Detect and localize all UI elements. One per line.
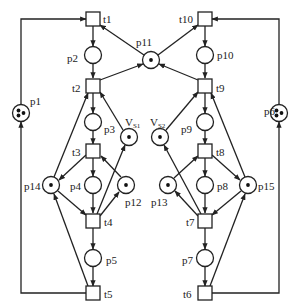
- label-p12: p12: [125, 196, 142, 208]
- label-p4: p4: [70, 180, 82, 192]
- label-t6: t6: [183, 288, 192, 300]
- transition-t7: [198, 214, 212, 228]
- label-p14: p14: [24, 180, 41, 192]
- place-p4: [85, 177, 102, 194]
- place-p10: [197, 47, 214, 64]
- label-t2: t2: [72, 82, 81, 94]
- label-p5: p5: [106, 254, 118, 266]
- place-p8: [197, 177, 214, 194]
- label-p6: p6: [264, 105, 276, 117]
- label-p11: p11: [136, 36, 152, 48]
- label-t3: t3: [72, 146, 81, 158]
- place-p3: [85, 114, 102, 131]
- label-t1: t1: [103, 13, 112, 25]
- label-t7: t7: [186, 216, 195, 228]
- place-p1: [13, 105, 30, 122]
- label-p9: p9: [181, 123, 193, 135]
- transition-t6: [198, 286, 212, 300]
- place-p5: [85, 250, 102, 267]
- label-p15: p15: [258, 180, 275, 192]
- label-p13: p13: [151, 196, 168, 208]
- transition-t5: [86, 286, 100, 300]
- label-p2: p2: [67, 52, 78, 64]
- label-p1: p1: [30, 95, 41, 107]
- label-t5: t5: [104, 288, 113, 300]
- transition-t4: [86, 214, 100, 228]
- label-p7: p7: [182, 254, 194, 266]
- label-p8: p8: [217, 180, 229, 192]
- transition-t1: [86, 12, 100, 26]
- places: [13, 47, 288, 267]
- transition-t2: [86, 79, 100, 93]
- transition-t10: [198, 12, 212, 26]
- label-t9: t9: [216, 82, 225, 94]
- label-vs1: VS1: [125, 116, 141, 130]
- label-t10: t10: [179, 13, 194, 25]
- label-p10: p10: [217, 49, 234, 61]
- label-vs2: VS2: [150, 116, 166, 130]
- label-p3: p3: [104, 123, 116, 135]
- transition-t8: [198, 144, 212, 158]
- transition-t3: [86, 144, 100, 158]
- left-arcs: [21, 19, 144, 293]
- place-p9: [197, 114, 214, 131]
- place-p2: [85, 47, 102, 64]
- place-p7: [197, 250, 214, 267]
- label-t8: t8: [216, 146, 225, 158]
- petri-net-diagram: t1 t2 t3 t4 t5 t6 t7 t8 t9 t10 p1 p2 p3 …: [0, 0, 303, 306]
- label-t4: t4: [104, 216, 113, 228]
- transition-t9: [198, 79, 212, 93]
